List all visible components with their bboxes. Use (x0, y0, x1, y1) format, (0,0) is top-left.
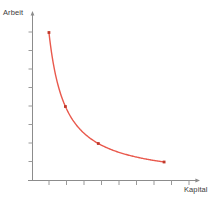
chart-container: Arbeit Kapital (0, 0, 210, 198)
data-point-marker (48, 31, 51, 34)
isoquant-curve (49, 33, 164, 163)
y-axis-label: Arbeit (3, 9, 23, 17)
data-point-marker (64, 105, 67, 108)
x-axis-ticks (49, 181, 189, 186)
chart-plot-area (0, 0, 210, 198)
x-axis-label: Kapital (184, 186, 208, 194)
y-axis-ticks (29, 32, 33, 162)
data-point-marker (97, 142, 100, 145)
data-point-markers (48, 31, 166, 163)
x-axis-arrow-icon (195, 179, 200, 183)
data-point-marker (163, 161, 166, 164)
y-axis-arrow-icon (31, 11, 35, 16)
